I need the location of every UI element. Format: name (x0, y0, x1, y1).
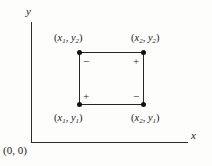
corner-label-bottom-left: (x1, y1) (54, 113, 83, 125)
sign-top-left: − (83, 56, 89, 67)
geometry-figure: y x (0, 0) (x1, y2) (x2, y2) (x1, y1) (x… (0, 0, 212, 166)
rectangle-bottom-edge (79, 104, 143, 105)
sign-bottom-right: − (133, 91, 139, 102)
sign-top-right: + (133, 56, 139, 67)
vertex-dot-top-left (77, 50, 82, 55)
y-axis-line (31, 22, 32, 143)
rectangle-left-edge (79, 52, 80, 104)
vertex-dot-bottom-left (77, 102, 82, 107)
corner-label-top-left: (x1, y2) (54, 33, 83, 45)
paren-close: ) (79, 112, 83, 123)
origin-label: (0, 0) (3, 145, 27, 156)
y-axis-label: y (26, 6, 31, 17)
corner-label-top-right: (x2, y2) (131, 33, 160, 45)
vertex-dot-top-right (141, 50, 146, 55)
x-axis-line (31, 142, 188, 143)
sign-bottom-left: + (83, 91, 89, 102)
vertex-dot-bottom-right (141, 102, 146, 107)
x-axis-label: x (191, 130, 196, 141)
paren-close: ) (79, 32, 83, 43)
paren-close: ) (156, 112, 160, 123)
rectangle-top-edge (79, 52, 143, 53)
rectangle-right-edge (143, 52, 144, 104)
paren-close: ) (156, 32, 160, 43)
corner-label-bottom-right: (x2, y1) (131, 113, 160, 125)
